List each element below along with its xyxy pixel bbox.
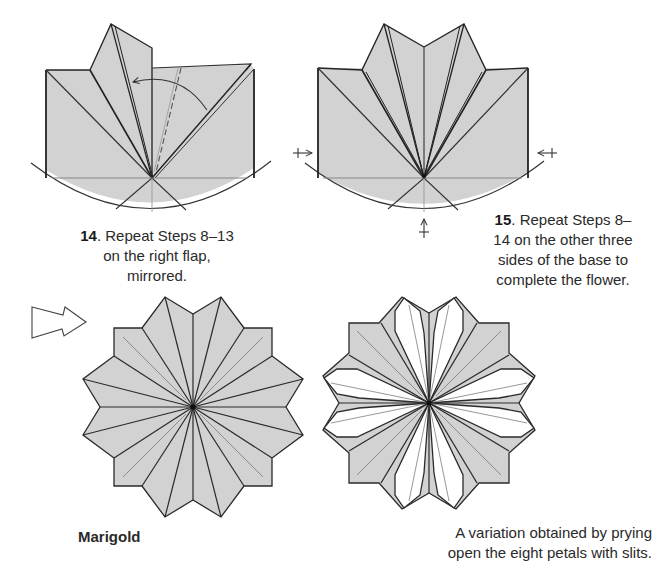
step15-number: 15 xyxy=(495,211,512,228)
marigold-diagram xyxy=(83,297,303,517)
step15-text: . Repeat Steps 8–14 on the other three s… xyxy=(493,211,632,288)
step14-text: . Repeat Steps 8–13 on the right flap, m… xyxy=(97,227,234,284)
step14-number: 14 xyxy=(80,227,97,244)
push-arrow-bottom-icon xyxy=(419,219,429,238)
variation-caption: A variation obtained by prying open the … xyxy=(430,523,652,563)
marigold-title: Marigold xyxy=(78,527,141,547)
step14-diagram xyxy=(31,24,271,212)
hollow-arrow-right-icon xyxy=(32,307,86,338)
step15-diagram xyxy=(293,24,557,238)
step14-caption: 14. Repeat Steps 8–13 on the right flap,… xyxy=(72,226,242,286)
push-arrow-left-icon xyxy=(293,148,312,158)
push-arrow-right-icon xyxy=(538,148,557,158)
variation-diagram xyxy=(323,297,535,509)
step15-caption: 15. Repeat Steps 8–14 on the other three… xyxy=(488,210,638,290)
